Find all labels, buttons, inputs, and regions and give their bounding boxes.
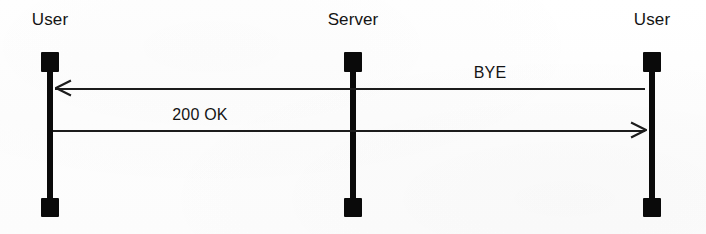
lifeline-foot-user-left	[41, 198, 59, 217]
lifeline-foot-user-right	[643, 198, 661, 217]
message-label-200-ok: 200 OK	[172, 105, 227, 124]
lifeline-stem-user-right	[649, 70, 655, 201]
message-line-200-ok	[53, 130, 645, 132]
lifeline-head-user-left	[41, 52, 59, 72]
lifeline-foot-server	[344, 198, 362, 217]
lifeline-head-user-right	[643, 52, 661, 72]
message-label-bye: BYE	[474, 63, 507, 82]
lifeline-head-server	[344, 52, 362, 72]
lifeline-label-server: Server	[328, 9, 379, 30]
lifeline-label-user-right: User	[634, 9, 670, 30]
sequence-diagram: User Server User BYE 20	[0, 0, 706, 234]
arrow-left-icon	[55, 88, 71, 106]
lifeline-stem-user-left	[47, 70, 53, 201]
message-line-bye	[55, 88, 645, 90]
lifeline-label-user-left: User	[32, 9, 68, 30]
arrow-right-icon	[629, 130, 645, 148]
